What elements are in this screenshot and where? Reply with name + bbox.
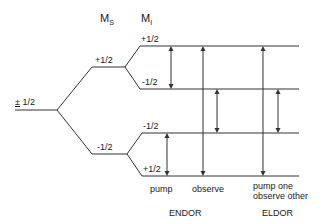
- ms-upper-label: +1/2: [95, 55, 113, 65]
- branch-mi-4: [127, 154, 142, 176]
- endor-pump-label: pump: [150, 184, 173, 194]
- eldor-label-line1: pump one: [253, 181, 293, 191]
- eldor-group-label: ELDOR: [262, 208, 293, 218]
- mi-level-3-label: -1/2: [143, 121, 159, 131]
- mi-header: MI: [141, 12, 152, 29]
- branch-ms-lower: [57, 110, 92, 154]
- ms-header: MS: [100, 12, 114, 29]
- mi-level-2-label: -1/2: [142, 77, 158, 87]
- endor-group-label: ENDOR: [169, 208, 202, 218]
- endor-observe-label: observe: [192, 184, 224, 194]
- branch-mi-3: [127, 133, 142, 154]
- mi-level-4-label: +1/2: [143, 164, 161, 174]
- eldor-label-line2: observe other: [253, 191, 308, 201]
- mi-level-1-label: +1/2: [141, 34, 159, 44]
- root-level-label: ± 1/2: [15, 97, 35, 107]
- branch-mi-1: [125, 46, 140, 67]
- branch-mi-2: [125, 67, 140, 89]
- branch-ms-upper: [57, 67, 92, 110]
- ms-lower-label: -1/2: [97, 142, 113, 152]
